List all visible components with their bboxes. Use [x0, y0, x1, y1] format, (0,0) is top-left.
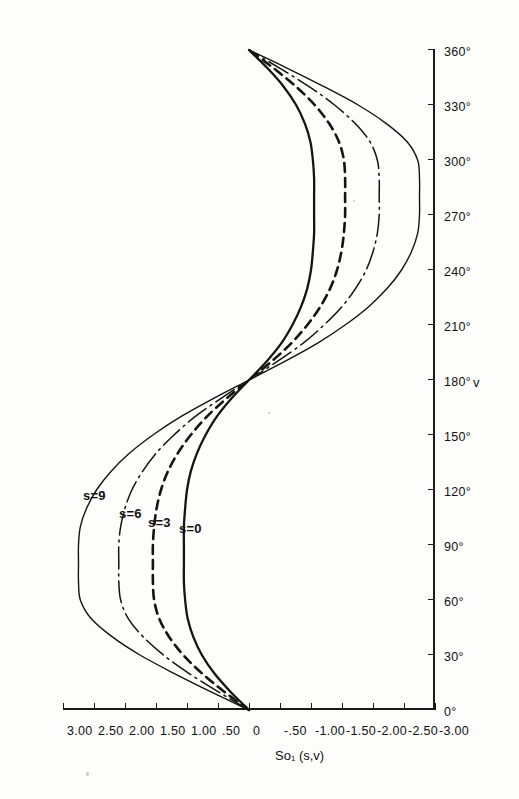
curve-s9 [78, 50, 419, 710]
angle-tick-label: 150° [444, 430, 471, 444]
value-tick-label: -3.00 [439, 724, 469, 738]
value-tick-label: -.50 [284, 724, 307, 738]
angle-axis-title: v [473, 375, 480, 390]
angle-tick-label: 90° [444, 540, 464, 554]
value-tick-label: -1.50 [346, 724, 376, 738]
value-tick-label: 3.00 [67, 724, 93, 738]
value-tick-label: -1.00 [315, 724, 345, 738]
rotated-plot-stage: 0°30°60°90°120°150°180°210°240°270°300°3… [45, 30, 475, 770]
angle-tick-label: 210° [444, 320, 471, 334]
value-tick-label: 1.00 [191, 724, 217, 738]
value-tick-label: 1.50 [160, 724, 186, 738]
curve-label-s0: s=0 [179, 520, 202, 535]
curve-layer [63, 50, 435, 710]
scan-speck [268, 412, 270, 414]
angle-tick-label: 360° [444, 45, 471, 59]
plot-area: 0°30°60°90°120°150°180°210°240°270°300°3… [63, 50, 435, 710]
angle-tick-label: 0° [444, 705, 457, 719]
scan-speck [353, 200, 355, 202]
value-axis-title: So₁ (s,v) [275, 748, 324, 763]
value-tick-label: .50 [222, 724, 240, 738]
figure-container: 0°30°60°90°120°150°180°210°240°270°300°3… [0, 0, 519, 799]
angle-tick-label: 30° [444, 650, 464, 664]
value-tick-label: -2.50 [408, 724, 438, 738]
angle-tick-label: 180° [444, 375, 471, 389]
scan-speck [86, 772, 89, 776]
curve-label-s6: s=6 [118, 506, 141, 521]
angle-tick-label: 240° [444, 265, 471, 279]
curve-label-s9: s=9 [83, 487, 106, 502]
value-tick-label: 2.00 [129, 724, 155, 738]
angle-tick-label: 300° [444, 155, 471, 169]
value-tick-label: -2.00 [377, 724, 407, 738]
curve-label-s3: s=3 [148, 515, 171, 530]
angle-tick-label: 120° [444, 485, 471, 499]
value-tick-label: 0 [253, 724, 260, 738]
value-tick-label: 2.50 [98, 724, 124, 738]
angle-tick-label: 270° [444, 210, 471, 224]
angle-tick-label: 60° [444, 595, 464, 609]
angle-tick-label: 330° [444, 100, 471, 114]
